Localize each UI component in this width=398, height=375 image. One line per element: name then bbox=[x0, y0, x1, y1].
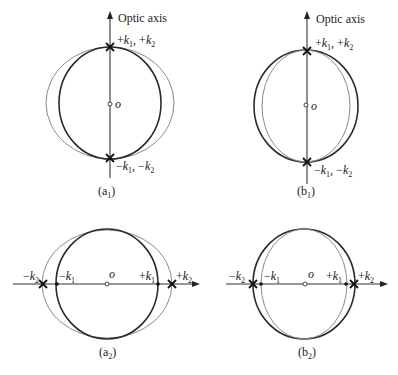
optic-axis-label: Optic axis bbox=[118, 11, 167, 25]
wave-surface-diagram: Optic axis o +k1, +k2 −k1, −k2 (a1) Opti… bbox=[0, 0, 398, 375]
caption-b2: (b2) bbox=[298, 345, 316, 361]
origin-marker bbox=[303, 282, 307, 286]
panel-a2: o −k2 −k1 +k1 +k2 (a2) bbox=[13, 229, 196, 361]
origin-marker bbox=[108, 102, 112, 106]
top-label: +k1, +k2 bbox=[117, 33, 155, 49]
optic-axis-label: Optic axis bbox=[316, 12, 365, 26]
panel-a1: Optic axis o +k1, +k2 −k1, −k2 (a1) bbox=[46, 11, 174, 200]
label-minus-k1: −k1 bbox=[264, 269, 280, 285]
label-minus-k2: −k2 bbox=[23, 269, 39, 285]
label-plus-k2: +k2 bbox=[358, 269, 374, 285]
panel-b2: o −k2 −k1 +k1 +k2 (b2) bbox=[226, 229, 384, 361]
panel-b1: Optic axis o +k1, +k2 −k1, −k2 (b1) bbox=[254, 12, 365, 200]
dot-plus-k1 bbox=[344, 282, 348, 286]
caption-a2: (a2) bbox=[99, 345, 116, 361]
label-minus-k2: −k2 bbox=[229, 269, 245, 285]
caption-a1: (a1) bbox=[98, 184, 115, 200]
origin-marker bbox=[304, 103, 308, 107]
bottom-label: −k1, −k2 bbox=[314, 163, 352, 179]
origin-label: o bbox=[115, 97, 121, 111]
origin-label: o bbox=[109, 267, 115, 281]
dot-plus-k1 bbox=[156, 282, 160, 286]
caption-b1: (b1) bbox=[297, 184, 315, 200]
label-plus-k1: +k1 bbox=[139, 269, 155, 285]
origin-label: o bbox=[308, 267, 314, 281]
label-plus-k1: +k1 bbox=[326, 269, 342, 285]
dot-minus-k1 bbox=[259, 282, 263, 286]
origin-marker bbox=[105, 282, 109, 286]
label-minus-k1: −k1 bbox=[59, 269, 75, 285]
label-plus-k2: +k2 bbox=[176, 269, 192, 285]
origin-label: o bbox=[311, 99, 317, 113]
top-label: +k1, +k2 bbox=[315, 36, 353, 52]
bottom-label: −k1, −k2 bbox=[116, 159, 154, 175]
